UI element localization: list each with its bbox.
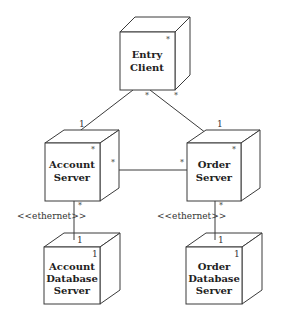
- svg-text:Entry: Entry: [132, 49, 164, 60]
- svg-text:*: *: [174, 91, 178, 100]
- stereotype-ethernet-account: <<ethernet>>: [17, 211, 86, 221]
- svg-text:Client: Client: [130, 62, 164, 73]
- svg-text:1: 1: [92, 249, 98, 259]
- svg-text:Server: Server: [196, 172, 233, 183]
- svg-text:1: 1: [217, 119, 223, 129]
- svg-text:Server: Server: [196, 285, 233, 296]
- svg-text:Order: Order: [198, 159, 231, 170]
- svg-text:*: *: [111, 158, 115, 167]
- svg-text:Server: Server: [54, 285, 91, 296]
- node-entry-client: Entry Client *: [120, 17, 190, 90]
- node-order-db-server: Order Database Server 1: [186, 233, 262, 304]
- svg-text:1: 1: [77, 235, 83, 245]
- svg-text:*: *: [145, 91, 149, 100]
- node-account-server: Account Server *: [45, 130, 119, 201]
- svg-text:Order: Order: [198, 261, 231, 272]
- svg-text:Account: Account: [48, 159, 95, 170]
- svg-text:*: *: [219, 201, 223, 210]
- node-multiplicity: *: [166, 35, 170, 44]
- svg-text:*: *: [232, 145, 236, 154]
- svg-text:1: 1: [218, 235, 224, 245]
- svg-text:1: 1: [234, 249, 240, 259]
- svg-text:Account: Account: [48, 261, 95, 272]
- stereotype-ethernet-order: <<ethernet>>: [157, 211, 226, 221]
- node-label: Entry: [132, 49, 164, 60]
- svg-text:*: *: [91, 145, 95, 154]
- node-order-server: Order Server *: [187, 130, 260, 201]
- svg-text:1: 1: [79, 119, 85, 129]
- svg-text:*: *: [180, 158, 184, 167]
- svg-text:Database: Database: [46, 273, 98, 284]
- svg-text:*: *: [78, 201, 82, 210]
- svg-text:Database: Database: [188, 273, 240, 284]
- svg-text:Server: Server: [54, 172, 91, 183]
